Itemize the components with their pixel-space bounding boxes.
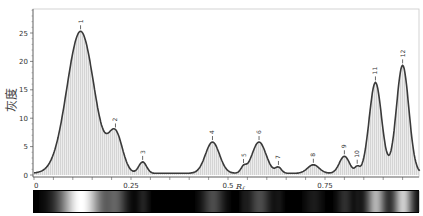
svg-text:12: 12 xyxy=(399,50,406,58)
svg-text:10: 10 xyxy=(19,115,28,123)
svg-text:2: 2 xyxy=(111,117,118,121)
svg-text:15: 15 xyxy=(19,86,28,94)
svg-text:5: 5 xyxy=(240,153,247,157)
svg-text:0.5: 0.5 xyxy=(222,182,233,190)
y-ticks: 0510152025 xyxy=(19,10,33,179)
svg-text:1: 1 xyxy=(77,19,84,23)
svg-text:10: 10 xyxy=(353,150,360,158)
svg-text:20: 20 xyxy=(19,58,28,66)
svg-text:25: 25 xyxy=(19,30,28,38)
densitometry-chart: 0510152025 00.250.50.75 123456789101112 … xyxy=(0,0,423,216)
svg-text:8: 8 xyxy=(309,153,316,157)
svg-text:5: 5 xyxy=(24,143,28,151)
svg-text:3: 3 xyxy=(139,150,146,154)
svg-text:4: 4 xyxy=(208,130,215,134)
svg-text:0.25: 0.25 xyxy=(123,182,139,190)
x-ticks: 00.250.50.75 xyxy=(34,177,403,190)
svg-text:9: 9 xyxy=(340,144,347,148)
svg-text:6: 6 xyxy=(255,130,262,134)
svg-text:11: 11 xyxy=(371,67,378,75)
svg-text:0.75: 0.75 xyxy=(317,182,333,190)
y-axis-label: 灰度 xyxy=(4,88,19,112)
svg-text:0: 0 xyxy=(24,172,28,180)
svg-text:7: 7 xyxy=(274,155,281,159)
band-strip xyxy=(33,190,419,213)
svg-text:0: 0 xyxy=(34,182,38,190)
